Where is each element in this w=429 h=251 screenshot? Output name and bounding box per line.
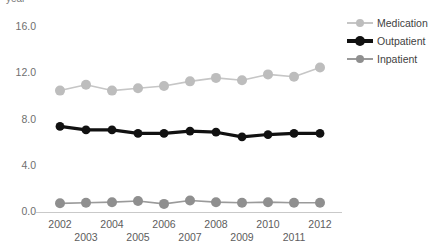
data-point	[82, 126, 91, 135]
x-axis-tick-label: 2005	[118, 231, 158, 243]
series-canvas	[42, 18, 334, 214]
data-point	[315, 62, 325, 72]
plot-area	[42, 18, 334, 214]
x-axis-tick-label: 2011	[274, 231, 314, 243]
y-axis-tick-label: 8.0	[2, 114, 36, 125]
legend-swatch-icon	[347, 34, 373, 48]
legend-swatch-icon	[347, 16, 373, 30]
y-axis-title: year	[6, 0, 25, 4]
series-medication	[55, 62, 325, 95]
data-point	[159, 199, 169, 209]
data-point	[264, 130, 273, 139]
y-axis-tick-label: 4.0	[2, 160, 36, 171]
data-point	[56, 122, 65, 131]
data-point	[315, 198, 325, 208]
legend-swatch-icon	[347, 52, 373, 66]
y-axis-tick-label: 12.0	[2, 67, 36, 78]
line-chart: year 0.04.08.012.016.0 20022003200420052…	[0, 0, 429, 251]
data-point	[160, 129, 169, 138]
data-point	[237, 75, 247, 85]
data-point	[211, 73, 221, 83]
data-point	[134, 129, 143, 138]
data-point	[133, 196, 143, 206]
x-axis-line	[36, 212, 342, 213]
x-axis-tick-label: 2004	[92, 218, 132, 230]
chart-legend: MedicationOutpatientInpatient	[347, 14, 429, 68]
legend-item-outpatient[interactable]: Outpatient	[347, 32, 429, 50]
data-point	[289, 198, 299, 208]
data-point	[212, 128, 221, 137]
legend-item-label: Medication	[377, 17, 428, 29]
legend-item-label: Inpatient	[377, 53, 417, 65]
legend-item-inpatient[interactable]: Inpatient	[347, 50, 429, 68]
data-point	[211, 197, 221, 207]
x-axis-tick-label: 2009	[222, 231, 262, 243]
data-point	[263, 197, 273, 207]
x-axis-tick-label: 2002	[40, 218, 80, 230]
data-point	[263, 69, 273, 79]
data-point	[238, 132, 247, 141]
series-inpatient	[55, 195, 325, 208]
x-axis-tick-label: 2010	[248, 218, 288, 230]
data-point	[55, 86, 65, 96]
data-point	[237, 198, 247, 208]
data-point	[186, 127, 195, 136]
legend-item-medication[interactable]: Medication	[347, 14, 429, 32]
y-axis-tick-label: 16.0	[2, 21, 36, 32]
data-point	[107, 86, 117, 96]
data-point	[55, 198, 65, 208]
x-axis-tick-label: 2006	[144, 218, 184, 230]
x-axis-tick-label: 2003	[66, 231, 106, 243]
x-axis-tick-label: 2012	[300, 218, 340, 230]
data-point	[289, 72, 299, 82]
data-point	[81, 80, 91, 90]
data-point	[316, 129, 325, 138]
legend-item-label: Outpatient	[377, 35, 425, 47]
data-point	[185, 76, 195, 86]
x-axis-tick-label: 2007	[170, 231, 210, 243]
x-axis-tick-label: 2008	[196, 218, 236, 230]
data-point	[290, 129, 299, 138]
data-point	[159, 81, 169, 91]
y-axis-tick-label: 0.0	[2, 206, 36, 217]
data-point	[108, 126, 117, 135]
series-outpatient	[56, 122, 325, 141]
data-point	[107, 197, 117, 207]
data-point	[185, 195, 195, 205]
data-point	[133, 83, 143, 93]
data-point	[81, 198, 91, 208]
